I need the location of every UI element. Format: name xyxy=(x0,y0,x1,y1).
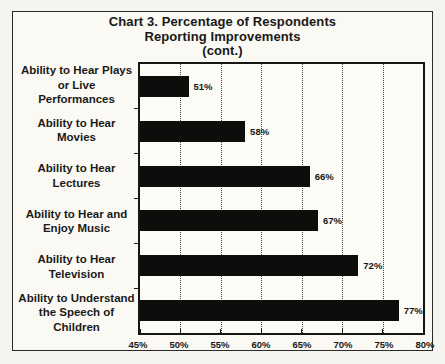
x-axis-tick xyxy=(180,329,181,333)
category-label: Ability to Understand the Speech of Chil… xyxy=(18,290,135,336)
x-axis: 45%50%55%60%65%70%75%80% xyxy=(13,339,432,353)
x-axis-label: 45% xyxy=(128,339,147,350)
y-axis-tick xyxy=(134,153,139,154)
chart-frame: Chart 3. Percentage of Respondents Repor… xyxy=(12,11,433,351)
y-axis-tick xyxy=(134,243,139,244)
x-axis-tick xyxy=(261,329,262,333)
x-axis-label: 70% xyxy=(333,339,352,350)
tick-layer xyxy=(140,64,423,333)
x-axis-tick xyxy=(423,329,424,333)
chart-title-line-3: (cont.) xyxy=(13,44,432,59)
x-axis-label: 75% xyxy=(374,339,393,350)
category-label: Ability to Hear Plays or Live Performanc… xyxy=(18,62,135,108)
y-axis-category-labels: Ability to Hear Plays or Live Performanc… xyxy=(18,62,135,335)
x-axis-label: 55% xyxy=(210,339,229,350)
y-axis-tick xyxy=(134,108,139,109)
y-axis-tick xyxy=(134,288,139,289)
x-axis-tick xyxy=(382,329,383,333)
y-axis-tick xyxy=(134,198,139,199)
category-label: Ability to Hear and Enjoy Music xyxy=(18,199,135,245)
category-label: Ability to Hear Television xyxy=(18,244,135,290)
category-label: Ability to Hear Lectures xyxy=(18,153,135,199)
x-axis-tick xyxy=(301,329,302,333)
x-axis-label: 60% xyxy=(251,339,270,350)
x-axis-label: 50% xyxy=(169,339,188,350)
x-axis-tick xyxy=(342,329,343,333)
x-axis-label: 80% xyxy=(415,339,434,350)
x-axis-tick xyxy=(220,329,221,333)
scanned-page: Chart 3. Percentage of Respondents Repor… xyxy=(0,0,445,364)
plot-area: 51%58%66%67%72%77% xyxy=(138,62,425,335)
chart-title-line-2: Reporting Improvements xyxy=(13,30,432,45)
category-label: Ability to Hear Movies xyxy=(18,108,135,154)
x-axis-label: 65% xyxy=(292,339,311,350)
chart-title: Chart 3. Percentage of Respondents Repor… xyxy=(13,15,432,59)
chart-title-line-1: Chart 3. Percentage of Respondents xyxy=(13,15,432,30)
x-axis-tick xyxy=(140,329,141,333)
